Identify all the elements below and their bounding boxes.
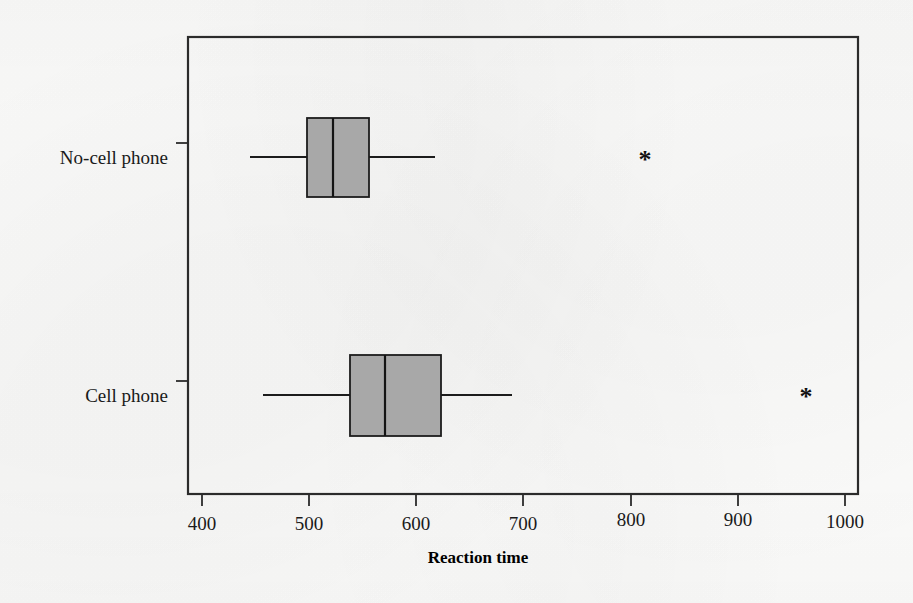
x-axis-tick-labels: 400 500 600 700 800 900 1000 [188,509,864,534]
outlier-marker-cell-phone-964: * [800,382,813,411]
x-tick-label-600: 600 [402,513,431,534]
x-tick-label-800: 800 [617,509,646,530]
boxplot-series-no-cell-phone: * [250,118,652,197]
plot-frame [188,37,858,494]
boxplot-canvas: 400 500 600 700 800 900 1000 Reaction ti… [0,0,913,603]
box-iqr-no-cell-phone [307,118,369,197]
y-axis-category-labels: No-cell phone Cell phone [60,147,168,406]
box-iqr-cell-phone [350,355,441,436]
x-tick-label-500: 500 [295,513,324,534]
x-tick-label-700: 700 [509,513,538,534]
category-label-cell-phone: Cell phone [85,385,168,406]
x-axis-title: Reaction time [428,548,529,567]
x-tick-label-400: 400 [188,513,217,534]
boxplot-figure: 400 500 600 700 800 900 1000 Reaction ti… [0,0,913,603]
y-axis-ticks [176,143,188,381]
outlier-marker-no-cell-phone-813: * [639,145,652,174]
x-tick-label-900: 900 [724,509,753,530]
x-tick-label-1000: 1000 [826,511,864,532]
x-axis-ticks [202,494,845,506]
boxplot-series-cell-phone: * [263,355,813,436]
category-label-no-cell-phone: No-cell phone [60,147,168,168]
